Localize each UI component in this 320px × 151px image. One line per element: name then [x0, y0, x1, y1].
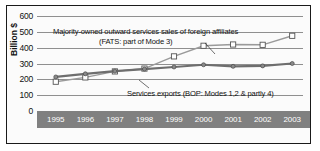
chart-figure: Billion $ 6005004003002001000 1995199619… [6, 5, 311, 144]
x-axis-tick: 2002 [254, 115, 271, 124]
y-axis-tick: 300 [19, 59, 33, 69]
x-axis-tick: 1996 [77, 115, 94, 124]
x-axis-tick: 1998 [136, 115, 153, 124]
annotation-fats-line1: Majority-owned outward services sales of… [53, 27, 238, 36]
x-axis-tick: 1997 [106, 115, 123, 124]
data-point-marker [171, 54, 176, 59]
data-point-marker [172, 65, 176, 69]
annotation-fats-line2: (FATS: part of Mode 3) [99, 37, 172, 46]
y-axis-tick: 200 [19, 74, 33, 84]
data-point-marker [290, 62, 294, 66]
y-axis-tick: 400 [19, 43, 33, 53]
annotation-bop: Services exports (BOP: Modes 1,2 & partl… [127, 89, 274, 98]
x-axis-tick: 2003 [284, 115, 301, 124]
x-axis-tick: 2001 [224, 115, 241, 124]
data-point-marker [260, 42, 265, 47]
data-point-marker [54, 75, 58, 79]
data-point-marker [231, 42, 236, 47]
x-axis-tick: 1999 [165, 115, 182, 124]
y-axis-tick: 600 [19, 11, 33, 21]
x-axis-tick: 1995 [47, 115, 64, 124]
y-axis-tick: 0 [28, 106, 33, 116]
data-point-marker [83, 72, 87, 76]
y-axis-tick: 100 [19, 90, 33, 100]
data-point-marker [142, 67, 146, 71]
data-point-marker [261, 64, 265, 68]
data-point-marker [113, 69, 117, 73]
annotation-leader-line [139, 80, 149, 88]
data-point-marker [290, 33, 295, 38]
data-point-marker [201, 43, 206, 48]
data-point-marker [202, 63, 206, 67]
x-axis-tick: 2000 [195, 115, 212, 124]
y-axis-tick: 500 [19, 27, 33, 37]
data-point-marker [231, 64, 235, 68]
y-axis-label: Billion $ [9, 23, 19, 56]
data-point-marker [53, 79, 58, 84]
x-axis-band: 199519961997199819992000200120022003 [37, 111, 310, 128]
